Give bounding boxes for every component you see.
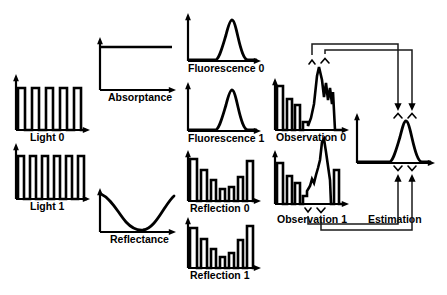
hat-icon (317, 208, 325, 213)
flow-arrow-obs0-b (325, 50, 412, 107)
observation-0-label: Observation 0 (276, 131, 346, 143)
reflection-0-label: Reflection 0 (190, 202, 250, 214)
light-0-waveform (18, 88, 86, 130)
hat-icon (394, 166, 402, 171)
panel-reflectance: Reflectance (97, 188, 176, 245)
reflection-1-y-arrowhead (185, 217, 191, 224)
light-0-y-arrowhead (13, 74, 19, 81)
fluorescence-1-label: Fluorescence 1 (188, 132, 265, 144)
light-1-waveform (18, 156, 87, 199)
hat-icon (305, 208, 311, 212)
absorptance-label: Absorptance (108, 91, 172, 103)
fluorescence-0-y-arrowhead (185, 13, 191, 20)
panel-observation-1: Observation 1 (272, 139, 349, 225)
reflection-1-waveform (190, 226, 256, 268)
observation-1-waveform (277, 139, 344, 204)
reflectance-waveform (101, 194, 174, 230)
light-1-label: Light 1 (30, 200, 65, 212)
observation-0-hat-marks (309, 59, 329, 65)
fluorescence-0-waveform (189, 20, 256, 60)
hat-icon (394, 114, 402, 119)
reflectance-x-arrowhead (169, 229, 176, 235)
absorptance-y-arrowhead (97, 37, 103, 44)
reflectance-label: Reflectance (110, 233, 169, 245)
panel-fluorescence-1: Fluorescence 1 (185, 82, 265, 144)
panel-absorptance: Absorptance (97, 37, 176, 103)
reflection-0-waveform (190, 159, 256, 201)
panel-fluorescence-0: Fluorescence 0 (185, 13, 265, 74)
panel-reflection-0: Reflection 0 (185, 150, 261, 214)
observation-1-label: Observation 1 (277, 213, 347, 225)
hat-icon (321, 59, 329, 64)
signal-flow-diagram: Light 0 Light 1 Absorptance Reflectance … (0, 0, 447, 295)
fluorescence-1-y-arrowhead (185, 82, 191, 89)
observation-1-hat-marks (305, 208, 325, 213)
estimation-waveform (358, 121, 430, 162)
hat-icon (408, 166, 416, 171)
observation-0-y-arrowhead (272, 78, 278, 85)
reflection-0-y-arrowhead (185, 150, 191, 157)
panel-observation-0: Observation 0 (272, 59, 349, 144)
panel-reflection-1: Reflection 1 (185, 217, 261, 281)
observation-0-waveform (277, 67, 344, 130)
panel-estimation: Estimation (354, 113, 435, 225)
light-1-y-arrowhead (13, 143, 19, 150)
estimation-hat-marks-top (394, 114, 416, 119)
hat-icon (309, 60, 315, 64)
panel-light-1: Light 1 (13, 143, 90, 212)
light-0-label: Light 0 (30, 131, 65, 143)
panel-light-0: Light 0 (13, 74, 90, 143)
estimation-label: Estimation (368, 213, 422, 225)
estimation-y-arrowhead (354, 113, 360, 120)
hat-icon (408, 114, 416, 119)
fluorescence-1-waveform (189, 90, 256, 130)
estimation-hat-marks-bottom (394, 166, 416, 171)
reflection-1-label: Reflection 1 (190, 269, 250, 281)
fluorescence-0-label: Fluorescence 0 (188, 62, 265, 74)
observation-1-y-arrowhead (272, 150, 278, 157)
